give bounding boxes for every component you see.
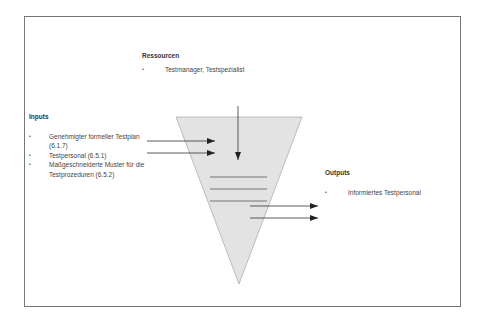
resources-block: Ressourcen Testmanager, Testspezialist — [142, 51, 244, 74]
outputs-item: Informiertes Testpersonal — [325, 188, 455, 198]
resources-item: Testmanager, Testspezialist — [142, 65, 244, 75]
resources-heading: Ressourcen — [142, 51, 244, 61]
funnel-triangle — [176, 117, 302, 284]
inputs-heading: Inputs — [29, 112, 149, 122]
inputs-item: Maßgeschneiderte Muster für die Testproz… — [29, 160, 149, 179]
inputs-block: Inputs Genehmigter formeller Testplan (6… — [29, 112, 149, 180]
inputs-item: Genehmigter formeller Testplan (6.1.7) — [29, 132, 149, 151]
inputs-item: Testpersonal (6.5.1) — [29, 151, 149, 161]
outputs-block: Outputs Informiertes Testpersonal — [325, 168, 455, 197]
outputs-heading: Outputs — [325, 168, 455, 178]
